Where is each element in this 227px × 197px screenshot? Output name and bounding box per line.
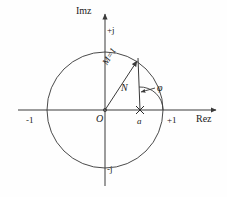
vector-n-label: N: [121, 83, 128, 93]
tick-label-minus-j: -j: [107, 165, 113, 174]
angle-phi-label: φ: [157, 83, 163, 93]
tick-label-minus-1: -1: [26, 116, 34, 125]
origin-label: O: [96, 114, 103, 124]
vector-n: [138, 58, 140, 110]
tick-label-plus-j: +j: [107, 26, 115, 35]
complex-plane-diagram: Imz +j -j -1 +1 Rez O a N φ M=1: [0, 0, 227, 197]
real-axis-label: Rez: [196, 114, 212, 124]
imaginary-axis-label: Imz: [76, 6, 92, 16]
point-a-label: a: [137, 117, 142, 126]
tick-label-plus-1: +1: [167, 116, 177, 125]
